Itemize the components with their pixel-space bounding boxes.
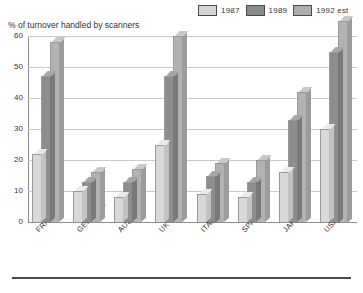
legend-item-1987: 1987 (198, 5, 240, 16)
x-tick-group-japan: JAPAN (281, 228, 306, 237)
bar-side (123, 193, 128, 222)
bar-side (206, 190, 211, 222)
legend-item-1989: 1989 (246, 5, 288, 16)
bar-side (82, 187, 87, 222)
bar-side (247, 193, 252, 222)
y-tick-40: 40 (14, 94, 23, 102)
bar-side (265, 156, 270, 222)
y-axis-tick-labels: 0102030405060 (0, 36, 26, 222)
bar-spain-1987 (238, 197, 247, 222)
gridline-0 (28, 222, 357, 223)
legend-label-1987: 1987 (221, 6, 240, 15)
bar-face (114, 197, 123, 222)
bar-face (155, 145, 164, 223)
bar-germany-1987 (73, 191, 82, 222)
bar-face (73, 191, 82, 222)
y-tick-20: 20 (14, 156, 23, 164)
plot-area: 0102030405060 FRANCEGERMANYAUSTRIAUKITAL… (0, 36, 363, 236)
bar-uk-1987 (155, 145, 164, 223)
bar-group-germany (69, 36, 110, 222)
legend-swatch-1992 (293, 5, 312, 16)
bar-face (238, 197, 247, 222)
legend-swatch-1989 (246, 5, 265, 16)
bar-side (100, 168, 105, 222)
bar-japan-1987 (279, 172, 288, 222)
bar-side (59, 38, 64, 222)
bar-side (306, 88, 311, 222)
bar-group-austria (110, 36, 151, 222)
bar-side (50, 72, 55, 222)
x-tick-group-usa: USA (322, 228, 338, 237)
bar-group-usa (316, 36, 357, 222)
bar-side (329, 125, 334, 222)
legend-swatch-1987 (198, 5, 217, 16)
bar-side (91, 178, 96, 222)
x-tick-group-uk: UK (157, 228, 168, 237)
bar-side (182, 32, 187, 222)
x-tick-group-italy: ITALY (199, 228, 220, 237)
bar-usa-1987 (320, 129, 329, 222)
bar-side (164, 140, 169, 222)
x-tick-group-germany: GERMANY (75, 228, 115, 237)
bar-italy-1987 (197, 194, 206, 222)
grid-area (28, 36, 357, 222)
chart-legend: 1987 1989 1992 est (198, 5, 349, 16)
bar-side (288, 168, 293, 222)
bar-group-spain (234, 36, 275, 222)
bar-side (338, 47, 343, 222)
x-tick-group-france: FRANCE (34, 228, 67, 237)
y-tick-30: 30 (14, 125, 23, 133)
bar-face (320, 129, 329, 222)
bar-side (215, 171, 220, 222)
bar-side (347, 16, 352, 222)
bar-austria-1987 (114, 197, 123, 222)
bar-france-1987 (32, 154, 41, 222)
bar-side (141, 165, 146, 222)
bar-group-italy (193, 36, 234, 222)
bar-side (132, 178, 137, 222)
bar-side (256, 178, 261, 222)
bar-face (279, 172, 288, 222)
legend-label-1992: 1992 est (316, 6, 348, 15)
bar-groups (28, 36, 357, 222)
bar-side (224, 159, 229, 222)
y-tick-0: 0 (19, 218, 23, 226)
bar-side (41, 150, 46, 222)
bar-group-japan (275, 36, 316, 222)
bar-group-uk (151, 36, 192, 222)
x-axis-tick-labels: FRANCEGERMANYAUSTRIAUKITALYSPAINJAPANUSA (28, 228, 357, 274)
x-tick-group-spain: SPAIN (240, 228, 263, 237)
y-tick-10: 10 (14, 187, 23, 195)
scanner-turnover-bar-chart: 1987 1989 1992 est % of turnover handled… (0, 0, 363, 293)
y-tick-60: 60 (14, 32, 23, 40)
chart-title: % of turnover handled by scanners (8, 20, 139, 30)
bar-side (173, 72, 178, 222)
bar-face (32, 154, 41, 222)
legend-item-1992: 1992 est (293, 5, 348, 16)
footer-rule (12, 277, 351, 279)
bar-side (297, 116, 302, 222)
bar-group-france (28, 36, 69, 222)
legend-label-1989: 1989 (269, 6, 288, 15)
y-tick-50: 50 (14, 63, 23, 71)
x-tick-group-austria: AUSTRIA (116, 228, 151, 237)
bar-face (197, 194, 206, 222)
